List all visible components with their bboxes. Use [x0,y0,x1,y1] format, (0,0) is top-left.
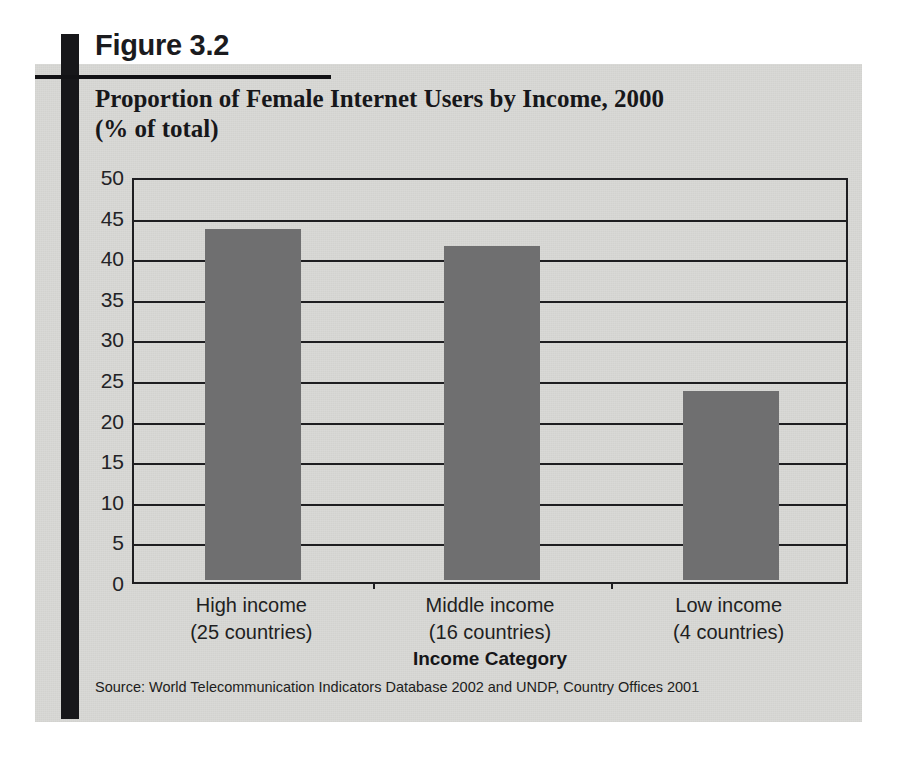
y-axis-tick-label: 40 [101,247,124,271]
figure-number: Figure 3.2 [95,29,229,62]
category-label-name: Low income [609,592,848,619]
category-label: High income(25 countries) [132,592,371,648]
y-axis-tick-label: 15 [101,450,124,474]
plot-area [132,178,848,584]
y-axis-tick-label: 35 [101,288,124,312]
chart-title-line-2: (% of total) [95,114,835,144]
bar [683,391,779,580]
y-axis-tick-label: 20 [101,410,124,434]
chart-title-line-1: Proportion of Female Internet Users by I… [95,85,664,112]
gridline [134,220,846,222]
y-axis-tick-labels: 05101520253035404550 [92,178,124,584]
y-axis-tick-label: 30 [101,328,124,352]
y-axis-tick-label: 25 [101,369,124,393]
category-label-detail: (25 countries) [132,619,371,646]
bar [205,229,301,580]
y-axis-tick-label: 0 [112,572,124,596]
category-label-detail: (16 countries) [371,619,610,646]
y-axis-tick-label: 50 [101,166,124,190]
y-axis-tick-label: 45 [101,207,124,231]
category-label-name: Middle income [371,592,610,619]
category-label: Low income(4 countries) [609,592,848,648]
left-accent-bar [61,34,79,719]
x-axis-tick [373,582,375,589]
y-axis-tick-label: 5 [112,531,124,555]
x-axis-tick [611,582,613,589]
category-label-detail: (4 countries) [609,619,848,646]
source-note: Source: World Telecommunication Indicato… [95,679,845,695]
category-label: Middle income(16 countries) [371,592,610,648]
x-axis-title: Income Category [132,648,848,670]
figure-root: Figure 3.2 Proportion of Female Internet… [0,0,902,762]
chart-title: Proportion of Female Internet Users by I… [95,84,835,144]
figure-divider-rule [35,75,331,79]
bar [444,246,540,580]
y-axis-tick-label: 10 [101,491,124,515]
category-label-name: High income [132,592,371,619]
category-labels: High income(25 countries)Middle income(1… [132,592,848,648]
plot-wrapper [132,178,848,584]
